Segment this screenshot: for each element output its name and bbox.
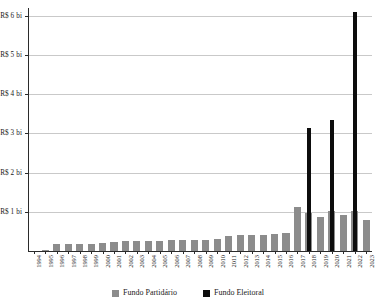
x-axis-label: 1998 <box>82 255 88 268</box>
legend-swatch-partidario <box>112 290 119 297</box>
bar-fundo-partidario <box>282 233 289 251</box>
x-axis-tick <box>263 252 264 254</box>
bar-group <box>363 8 370 251</box>
x-axis-label: 1996 <box>59 255 65 268</box>
bar-fundo-partidario <box>191 240 198 251</box>
x-axis-tick <box>320 252 321 254</box>
bar-group <box>340 8 347 251</box>
x-axis-label: 1995 <box>48 255 54 268</box>
x-axis-tick <box>366 252 367 254</box>
y-axis-label: R$ 1 bi <box>0 208 22 216</box>
x-axis-tick <box>45 252 46 254</box>
bar-group <box>260 8 267 251</box>
x-axis-label: 2011 <box>231 255 237 268</box>
bar-fundo-partidario <box>133 241 140 251</box>
bar-fundo-partidario <box>317 217 324 251</box>
bar-chart: R$ 1 biR$ 2 biR$ 3 biR$ 4 biR$ 5 biR$ 6 … <box>0 0 376 308</box>
bar-group <box>30 8 37 251</box>
bar-fundo-partidario <box>99 243 106 251</box>
bar-fundo-partidario <box>156 241 163 251</box>
bar-group <box>271 8 278 251</box>
x-axis-label: 2012 <box>243 255 249 268</box>
x-axis-label: 2018 <box>311 255 317 268</box>
x-axis-tick <box>91 252 92 254</box>
bar-group <box>179 8 186 251</box>
bar-fundo-partidario <box>271 234 278 251</box>
x-axis-tick <box>80 252 81 254</box>
bar-group <box>202 8 209 251</box>
bar-fundo-partidario <box>76 244 83 251</box>
bar-group <box>214 8 221 251</box>
legend-label: Fundo Eleitoral <box>214 289 264 297</box>
bar-group <box>110 8 117 251</box>
bar-group <box>248 8 255 251</box>
bars-group <box>28 8 372 251</box>
x-axis-tick <box>240 252 241 254</box>
bar-group <box>305 8 312 251</box>
x-axis-labels-group: 1994199519961997199819992000200120022003… <box>28 252 372 286</box>
bar-fundo-partidario <box>168 240 175 251</box>
bar-fundo-partidario <box>65 244 72 251</box>
x-axis-label: 2006 <box>174 255 180 268</box>
bar-fundo-partidario <box>122 241 129 251</box>
bar-group <box>168 8 175 251</box>
x-axis-label: 2020 <box>334 255 340 268</box>
bar-fundo-partidario <box>179 240 186 251</box>
bar-fundo-partidario <box>110 242 117 251</box>
x-axis-tick <box>125 252 126 254</box>
bar-group <box>156 8 163 251</box>
x-axis-tick <box>148 252 149 254</box>
x-axis-label: 2013 <box>254 255 260 268</box>
y-axis-label: R$ 5 bi <box>0 51 22 59</box>
x-axis-tick <box>103 252 104 254</box>
bar-fundo-partidario <box>363 220 370 251</box>
y-axis-line <box>28 8 29 251</box>
x-axis-label: 2001 <box>116 255 122 268</box>
bar-group <box>317 8 324 251</box>
bar-fundo-partidario <box>88 244 95 251</box>
x-axis-label: 2021 <box>346 255 352 268</box>
x-axis-tick <box>114 252 115 254</box>
bar-fundo-eleitoral <box>307 128 311 251</box>
bar-group <box>88 8 95 251</box>
bar-group <box>65 8 72 251</box>
x-axis-tick <box>206 252 207 254</box>
bar-group <box>237 8 244 251</box>
bar-group <box>53 8 60 251</box>
bar-fundo-partidario <box>202 240 209 251</box>
legend-swatch-eleitoral <box>203 290 210 297</box>
x-axis-tick <box>194 252 195 254</box>
bar-fundo-partidario <box>294 207 301 251</box>
x-axis-label: 2007 <box>185 255 191 268</box>
x-axis-label: 1999 <box>93 255 99 268</box>
bar-fundo-partidario <box>237 235 244 251</box>
bar-group <box>76 8 83 251</box>
legend-label: Fundo Partidário <box>123 289 177 297</box>
x-axis-label: 2022 <box>357 255 363 268</box>
x-axis-tick <box>137 252 138 254</box>
bar-fundo-partidario <box>214 239 221 251</box>
x-axis-tick <box>332 252 333 254</box>
x-axis-tick <box>309 252 310 254</box>
x-axis-tick <box>229 252 230 254</box>
x-axis-tick <box>297 252 298 254</box>
x-axis-label: 2016 <box>288 255 294 268</box>
x-axis-tick <box>343 252 344 254</box>
legend-item: Fundo Eleitoral <box>203 289 264 297</box>
x-axis-tick <box>286 252 287 254</box>
plot-area: R$ 1 biR$ 2 biR$ 3 biR$ 4 biR$ 5 biR$ 6 … <box>28 8 372 251</box>
bar-group <box>122 8 129 251</box>
x-axis-label: 2000 <box>105 255 111 268</box>
legend-item: Fundo Partidário <box>112 289 177 297</box>
x-axis-label: 2004 <box>151 255 157 268</box>
x-axis-tick <box>160 252 161 254</box>
y-axis-label: R$ 3 bi <box>0 129 22 137</box>
x-axis-label: 2023 <box>369 255 375 268</box>
x-axis-label: 2014 <box>265 255 271 268</box>
x-axis-label: 2002 <box>128 255 134 268</box>
x-axis-label: 2003 <box>139 255 145 268</box>
bar-fundo-partidario <box>53 244 60 251</box>
bar-group <box>351 8 358 251</box>
x-axis-tick <box>183 252 184 254</box>
x-axis-tick <box>275 252 276 254</box>
